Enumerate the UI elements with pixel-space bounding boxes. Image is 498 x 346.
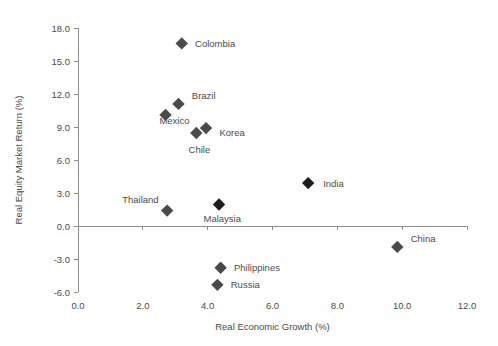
x-axis-title: Real Economic Growth (%) [215,321,330,332]
data-point-marker[interactable] [172,98,184,110]
x-axis-tick-label: 8.0 [331,300,344,311]
data-point-marker[interactable] [211,279,223,291]
data-point-label: Thailand [122,194,158,205]
data-point-label: Mexico [159,115,189,126]
x-axis-tick-label: 6.0 [266,300,279,311]
data-point-label: Russia [231,279,261,290]
data-point-label: India [323,178,344,189]
x-axis-tick-label: 2.0 [136,300,149,311]
scatter-chart: 18.015.012.09.06.03.00.0-3.0-6.00.02.04.… [0,0,498,346]
y-axis-tick-label: 15.0 [52,56,71,67]
y-axis-tick-label: 12.0 [52,89,71,100]
data-point-label: Colombia [195,38,236,49]
data-point-label: China [411,233,437,244]
y-axis-tick-label: 3.0 [57,188,70,199]
data-point-marker[interactable] [176,37,188,49]
y-axis-title: Real Equity Market Return (%) [13,96,24,225]
data-point-marker[interactable] [302,177,314,189]
data-point-label: Philippines [234,262,280,273]
x-axis-tick-label: 0.0 [71,300,84,311]
y-axis-tick-label: -6.0 [54,287,70,298]
data-point-marker[interactable] [391,241,403,253]
data-point-marker[interactable] [213,198,225,210]
x-axis-tick-label: 10.0 [393,300,412,311]
chart-plot-area: 18.015.012.09.06.03.00.0-3.0-6.00.02.04.… [0,0,498,346]
y-axis-tick-label: -3.0 [54,254,70,265]
data-point-label: Brazil [192,90,216,101]
y-axis-tick-label: 0.0 [57,221,70,232]
y-axis-tick-label: 9.0 [57,122,70,133]
y-axis-tick-label: 6.0 [57,155,70,166]
y-axis-tick-label: 18.0 [52,23,71,34]
x-axis-tick-label: 12.0 [458,300,477,311]
data-point-label: Malaysia [204,213,242,224]
data-point-marker[interactable] [161,204,173,216]
data-point-label: Chile [189,144,211,155]
data-point-marker[interactable] [214,262,226,274]
x-axis-tick-label: 4.0 [201,300,214,311]
data-point-label: Korea [219,127,245,138]
